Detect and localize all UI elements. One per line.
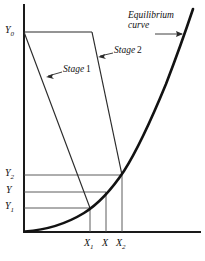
equilibrium-curve (25, 9, 193, 232)
stage-2-annotation: Stage 2 (114, 46, 142, 56)
stage-1-annotation: Stage 1 (63, 65, 91, 75)
y-axis-label-y1: Y1 (5, 201, 14, 214)
x-axis-label-x2: X2 (116, 238, 126, 251)
y-axis-label-y0: Y0 (5, 25, 14, 38)
y-axis-label-y: Y (6, 185, 12, 198)
stage-1-operating-line (24, 32, 90, 208)
y-axis-label-y2: Y2 (5, 168, 14, 181)
stage-2-annotation-number: 2 (135, 45, 142, 55)
equilibrium-stage-diagram: Y0 Y2 Y Y1 X1 X X2 Equilibrium curve Sta… (0, 0, 205, 261)
equilibrium-curve-annotation: Equilibrium curve (128, 11, 174, 31)
stage-1-annotation-number: 1 (84, 64, 91, 74)
x-axis-label-x: X (102, 238, 108, 251)
equilibrium-curve-annotation-line2: curve (128, 21, 174, 31)
x-axis-label-x1: X1 (84, 238, 94, 251)
diagram-canvas (0, 0, 205, 261)
equilibrium-curve-arrowhead (176, 31, 183, 37)
stage-2-annotation-text: Stage (114, 45, 135, 55)
stage-1-annotation-text: Stage (63, 64, 84, 74)
